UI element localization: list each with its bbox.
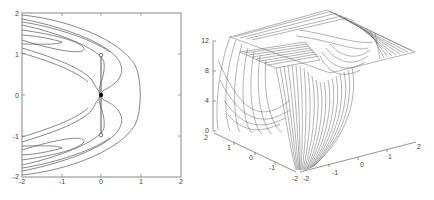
plateau [230, 10, 415, 73]
saddle [296, 30, 372, 74]
x-tick-label: -2 [303, 175, 309, 182]
x-tick-label: 0 [99, 178, 103, 185]
y-tick-label: -1 [269, 164, 275, 171]
y-tick-label: 1 [15, 51, 19, 58]
y-tick-label: -2 [292, 175, 298, 182]
x-tick-label: -1 [332, 169, 338, 176]
y-tick-label: -1 [13, 133, 19, 140]
x-tick-label: -1 [59, 178, 65, 185]
x-tick-label: 1 [139, 178, 143, 185]
x-tick-label: -2 [19, 178, 25, 185]
z-tick-label: 0 [205, 127, 209, 134]
y-tick-label: 0 [249, 154, 253, 161]
y-tick-label: -2 [13, 173, 19, 180]
center-point [99, 93, 103, 97]
contour-lines [22, 15, 140, 175]
y-tick-label: 2 [204, 134, 208, 141]
segment-end-bottom [99, 133, 103, 137]
segment-end-top [99, 53, 103, 57]
x-tick-label: 0 [360, 161, 364, 168]
x-tick-label: 2 [179, 178, 183, 185]
y-tick-label: 2 [15, 10, 19, 17]
contour-plot: -2 -1 0 1 2 2 1 0 -1 -2 [13, 10, 183, 185]
z-tick-label: 8 [205, 67, 209, 74]
x-tick-label: 1 [388, 153, 392, 160]
front-valley [276, 65, 354, 170]
z-tick-label: 4 [205, 97, 209, 104]
x-tick-label: 2 [417, 143, 421, 150]
surface-plot: 12 8 4 0 2 1 0 -1 -2 -2 -1 0 1 2 [201, 10, 421, 182]
y-tick-label: 0 [15, 92, 19, 99]
z-tick-label: 12 [201, 37, 209, 44]
y-tick-label: 1 [227, 144, 231, 151]
figure: -2 -1 0 1 2 2 1 0 -1 -2 [0, 0, 434, 200]
